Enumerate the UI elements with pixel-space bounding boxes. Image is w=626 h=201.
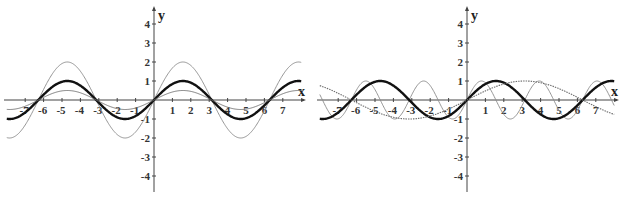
- y-arrow-icon: [152, 6, 156, 11]
- y-tick-label: 4: [145, 18, 151, 30]
- y-tick-label: 3: [458, 37, 464, 49]
- x-tick-label: -5: [369, 104, 379, 116]
- x-tick-label: 1: [170, 104, 176, 116]
- chart-left-amplitude: -7-6-5-4-3-2-11234567-4-3-2-11234xy: [0, 0, 313, 201]
- x-tick-label: 3: [206, 104, 212, 116]
- y-tick-label: -3: [454, 151, 464, 163]
- x-tick-label: -4: [75, 104, 85, 116]
- y-tick-label: 2: [458, 56, 464, 68]
- y-tick-label: 2: [145, 56, 151, 68]
- x-axis-label: x: [298, 84, 305, 99]
- y-tick-label: -4: [141, 170, 151, 182]
- y-tick-label: 1: [458, 75, 464, 87]
- x-tick-label: -4: [388, 104, 398, 116]
- x-tick-label: 1: [483, 104, 489, 116]
- y-tick-label: -3: [141, 151, 151, 163]
- x-tick-label: 7: [280, 104, 286, 116]
- y-tick-label: 3: [145, 37, 151, 49]
- y-tick-label: -2: [454, 132, 464, 144]
- x-tick-label: 5: [243, 104, 249, 116]
- y-axis-label: y: [158, 8, 165, 23]
- y-tick-label: 1: [145, 75, 151, 87]
- y-tick-label: -2: [141, 132, 151, 144]
- y-arrow-icon: [465, 6, 469, 11]
- x-tick-label: -6: [38, 104, 48, 116]
- plot-area: -7-6-5-4-3-2-11234567-4-3-2-11234xy: [0, 0, 313, 201]
- y-tick-label: -4: [454, 170, 464, 182]
- chart-right-period: -7-6-5-4-3-2-11234567-4-3-2-11234xy: [313, 0, 626, 201]
- x-tick-label: -5: [56, 104, 66, 116]
- y-tick-label: 4: [458, 18, 464, 30]
- plot-area: -7-6-5-4-3-2-11234567-4-3-2-11234xy: [313, 0, 626, 201]
- y-axis-label: y: [471, 8, 478, 23]
- x-axis-label: x: [611, 84, 618, 99]
- x-tick-label: -6: [351, 104, 361, 116]
- x-tick-label: 2: [188, 104, 194, 116]
